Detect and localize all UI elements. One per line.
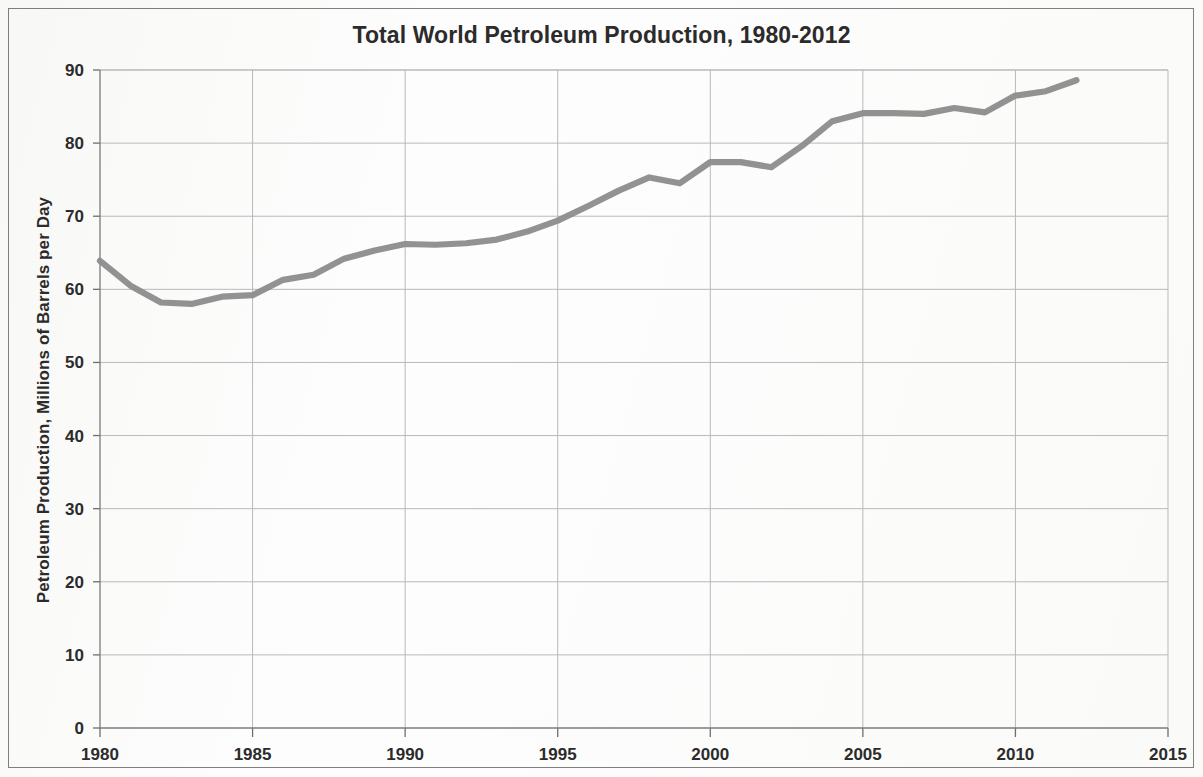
x-tick-label: 1995 <box>539 745 577 764</box>
y-tick-label: 0 <box>75 719 84 738</box>
y-tick-label: 30 <box>65 500 84 519</box>
y-tick-label: 80 <box>65 134 84 153</box>
x-tick-label: 1980 <box>81 745 119 764</box>
y-tick-label: 10 <box>65 646 84 665</box>
y-tick-label: 90 <box>65 61 84 80</box>
x-axis-ticks: 19801985199019952000200520102015 <box>81 728 1187 764</box>
y-axis-ticks: 0102030405060708090 <box>65 61 100 738</box>
y-tick-label: 60 <box>65 280 84 299</box>
plot-area: 0102030405060708090 19801985199019952000… <box>0 0 1203 777</box>
x-tick-label: 1985 <box>234 745 272 764</box>
x-tick-label: 1990 <box>386 745 424 764</box>
x-tick-label: 2005 <box>844 745 882 764</box>
chart-figure: Total World Petroleum Production, 1980-2… <box>0 0 1203 777</box>
x-tick-label: 2015 <box>1149 745 1187 764</box>
axis-lines <box>100 70 1168 728</box>
gridlines <box>100 70 1168 728</box>
x-tick-label: 2010 <box>997 745 1035 764</box>
y-tick-label: 70 <box>65 207 84 226</box>
x-tick-label: 2000 <box>691 745 729 764</box>
y-tick-label: 40 <box>65 427 84 446</box>
data-series-line <box>100 80 1076 304</box>
y-tick-label: 20 <box>65 573 84 592</box>
y-tick-label: 50 <box>65 353 84 372</box>
